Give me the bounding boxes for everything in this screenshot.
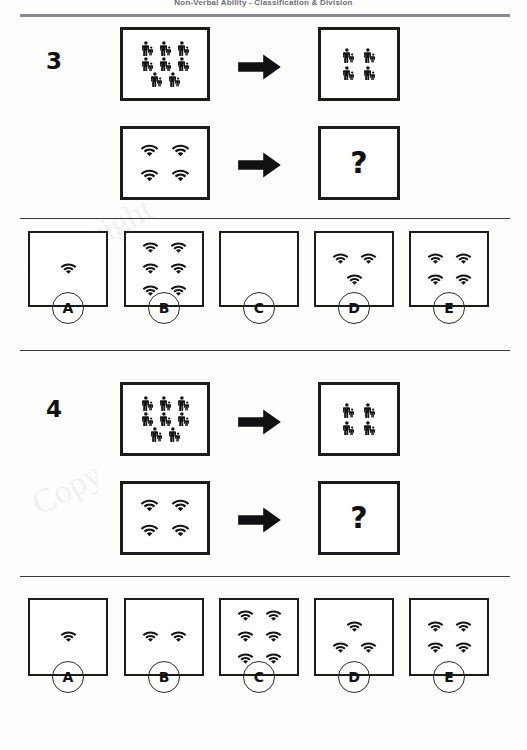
person-icon bbox=[159, 412, 172, 427]
divider-before-q4 bbox=[20, 350, 510, 351]
icon-grid bbox=[123, 30, 207, 98]
wifi-icon bbox=[455, 252, 472, 265]
person-icon bbox=[159, 57, 172, 72]
wifi-icon bbox=[427, 252, 444, 265]
icon-row bbox=[140, 168, 190, 183]
wifi-icon bbox=[332, 641, 349, 654]
option-label-a[interactable]: A bbox=[52, 661, 84, 693]
icon-grid bbox=[321, 30, 397, 98]
wifi-icon bbox=[142, 262, 159, 275]
icon-row bbox=[60, 630, 77, 643]
option-label-b[interactable]: B bbox=[148, 292, 180, 324]
wifi-icon bbox=[140, 168, 159, 183]
person-icon bbox=[363, 421, 376, 436]
wifi-icon bbox=[170, 630, 187, 643]
option-label-d[interactable]: D bbox=[338, 661, 370, 693]
wifi-icon bbox=[332, 641, 349, 654]
wifi-icon bbox=[360, 641, 377, 654]
question-number: 4 bbox=[46, 396, 62, 422]
wifi-icon bbox=[171, 168, 190, 183]
wifi-icon bbox=[171, 143, 190, 158]
transform-arrow bbox=[237, 507, 282, 533]
wifi-icon bbox=[455, 641, 472, 654]
example-output-panel bbox=[318, 382, 400, 456]
person-icon bbox=[159, 412, 172, 427]
wifi-icon bbox=[170, 241, 187, 254]
person-icon bbox=[177, 412, 190, 427]
person-icon bbox=[150, 427, 163, 442]
worksheet-page: Copyright Copy Non-Verbal Ability - Clas… bbox=[0, 0, 527, 750]
icon-row bbox=[141, 57, 190, 72]
wifi-icon bbox=[237, 609, 254, 622]
page-title: Non-Verbal Ability - Classification & Di… bbox=[0, 0, 527, 8]
icon-row bbox=[427, 252, 472, 265]
wifi-icon bbox=[455, 273, 472, 286]
option-label-a[interactable]: A bbox=[52, 292, 84, 324]
person-icon bbox=[363, 421, 376, 436]
wifi-icon bbox=[455, 641, 472, 654]
option-label-e[interactable]: E bbox=[433, 292, 465, 324]
wifi-icon bbox=[346, 273, 363, 286]
wifi-icon bbox=[455, 252, 472, 265]
person-icon bbox=[141, 412, 154, 427]
person-icon bbox=[363, 48, 376, 63]
wifi-icon bbox=[142, 630, 159, 643]
option-label-b[interactable]: B bbox=[148, 661, 180, 693]
question-input-panel bbox=[120, 481, 210, 555]
wifi-icon bbox=[332, 252, 349, 265]
wifi-icon bbox=[140, 143, 159, 158]
question-mark: ? bbox=[321, 129, 397, 197]
person-icon bbox=[141, 41, 154, 56]
icon-row bbox=[60, 262, 77, 275]
icon-row bbox=[142, 262, 187, 275]
wifi-icon bbox=[60, 630, 77, 643]
person-icon bbox=[141, 41, 154, 56]
icon-row bbox=[342, 48, 376, 63]
person-icon bbox=[342, 48, 355, 63]
option-label-d[interactable]: D bbox=[338, 292, 370, 324]
icon-row bbox=[141, 396, 190, 411]
wifi-icon bbox=[170, 262, 187, 275]
transform-arrow bbox=[237, 409, 282, 435]
option-label-e[interactable]: E bbox=[433, 661, 465, 693]
person-icon bbox=[150, 427, 163, 442]
wifi-icon bbox=[140, 498, 159, 513]
wifi-icon bbox=[455, 273, 472, 286]
wifi-icon bbox=[265, 609, 282, 622]
icon-row bbox=[140, 498, 190, 513]
option-label-c[interactable]: C bbox=[243, 661, 275, 693]
wifi-icon bbox=[142, 241, 159, 254]
wifi-icon bbox=[265, 630, 282, 643]
icon-row bbox=[141, 41, 190, 56]
wifi-icon bbox=[427, 252, 444, 265]
watermark-2: Copy bbox=[25, 455, 108, 523]
transform-arrow bbox=[237, 152, 282, 178]
person-icon bbox=[177, 396, 190, 411]
icon-grid bbox=[123, 484, 207, 552]
icon-row bbox=[427, 641, 472, 654]
wifi-icon bbox=[346, 273, 363, 286]
option-label-c[interactable]: C bbox=[243, 292, 275, 324]
example-output-panel bbox=[318, 27, 400, 101]
right-arrow-icon bbox=[237, 507, 282, 533]
wifi-icon bbox=[237, 630, 254, 643]
wifi-icon bbox=[237, 630, 254, 643]
wifi-icon bbox=[265, 630, 282, 643]
wifi-icon bbox=[237, 609, 254, 622]
icon-row bbox=[342, 403, 376, 418]
icon-row bbox=[342, 66, 376, 81]
icon-grid bbox=[123, 385, 207, 453]
wifi-icon bbox=[171, 143, 190, 158]
icon-row bbox=[150, 427, 181, 442]
person-icon bbox=[159, 57, 172, 72]
person-icon bbox=[342, 421, 355, 436]
question-mark: ? bbox=[321, 484, 397, 552]
person-icon bbox=[168, 427, 181, 442]
wifi-icon bbox=[455, 620, 472, 633]
icon-row bbox=[142, 630, 187, 643]
person-icon bbox=[150, 72, 163, 87]
person-icon bbox=[168, 427, 181, 442]
wifi-icon bbox=[427, 273, 444, 286]
wifi-icon bbox=[346, 620, 363, 633]
person-icon bbox=[141, 57, 154, 72]
